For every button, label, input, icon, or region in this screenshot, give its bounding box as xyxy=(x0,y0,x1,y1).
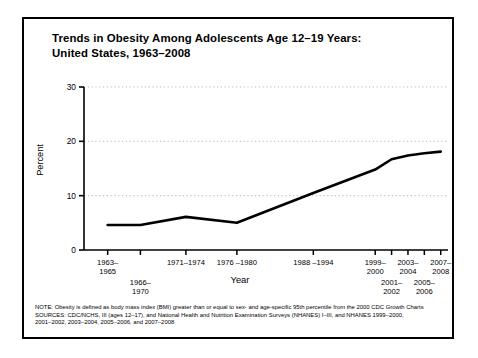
x-tick-label-2: 1971–1974 xyxy=(160,258,212,267)
y-tick-label-10: 10 xyxy=(67,191,77,201)
chart-footnotes: NOTE: Obesity is defined as body mass in… xyxy=(35,304,447,327)
x-tick-label-4: 1988 –1994 xyxy=(287,258,339,267)
footnote-sources-line-1: SOURCES: CDC/NCHS, III (ages 12–17), and… xyxy=(35,312,447,320)
x-tick-label-3: 1976 –1980 xyxy=(211,258,263,267)
y-tick-label-30: 30 xyxy=(67,82,77,92)
y-tick-label-20: 20 xyxy=(67,136,77,146)
footnote-note: NOTE: Obesity is defined as body mass in… xyxy=(35,304,447,312)
figure-panel: Trends in Obesity Among Adolescents Age … xyxy=(22,17,454,339)
plot-area: Percent 0102030 1963– 19651966– 19701971… xyxy=(24,19,456,341)
footnote-sources-line-2: 2001–2002, 2003–2004, 2005–2006, and 200… xyxy=(35,319,447,327)
y-tick-label-0: 0 xyxy=(71,245,76,255)
data-line-series-0 xyxy=(108,152,441,225)
x-axis-title: Year xyxy=(24,274,456,285)
